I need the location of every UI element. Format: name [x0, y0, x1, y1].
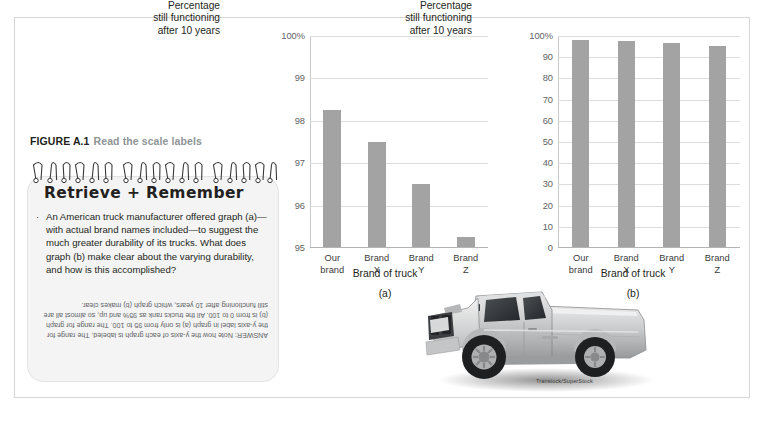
chart-a-y-axis-label: Percentagestill functioningafter 10 year… [120, 0, 220, 37]
gridline [310, 78, 488, 79]
y-axis-tick-label: 80 [543, 73, 553, 83]
y-axis-tick-label: 96 [295, 201, 305, 211]
chart-b-y-axis-label: Percentagestill functioningafter 10 year… [372, 0, 472, 37]
bullet-marker: · [36, 210, 39, 223]
figure-number: FIGURE A.1 [30, 135, 90, 147]
x-axis-line [310, 247, 488, 248]
x-axis-tick-label-line: Brand [364, 253, 389, 265]
y-axis-tick-label: 40 [543, 158, 553, 168]
bar [412, 184, 430, 247]
y-axis-label-line: Percentage [372, 0, 472, 12]
x-axis-tick-label-line: Brand [705, 253, 730, 265]
bar [572, 40, 589, 247]
x-axis-line [558, 247, 740, 248]
photo-credit: Transtock/SuperStock [536, 378, 593, 384]
retrieve-remember-question: · An American truck manufacturer offered… [36, 210, 268, 276]
y-axis-label-line: still functioning [372, 12, 472, 24]
y-axis-tick-label: 50 [543, 137, 553, 147]
y-axis-tick-label: 0 [548, 243, 553, 253]
y-axis-tick-label: 97 [295, 158, 305, 168]
chart-b-plot-area: 0102030405060708090100%OurbrandBrandXBra… [558, 36, 740, 248]
retrieve-remember-box [27, 176, 279, 382]
retrieve-remember-heading: Retrieve + Remember [44, 184, 244, 202]
figure-page: FIGURE A.1Read the scale labels Retrieve… [0, 0, 765, 421]
y-axis-label-line: after 10 years [372, 25, 472, 37]
y-axis-tick-label: 60 [543, 116, 553, 126]
bar [368, 142, 386, 247]
y-axis-tick-label: 98 [295, 116, 305, 126]
x-axis-tick-label-line: Brand [659, 253, 684, 265]
bar [663, 43, 680, 247]
truck-photo [424, 258, 662, 398]
y-axis-label-line: after 10 years [120, 25, 220, 37]
y-axis-tick-label: 70 [543, 95, 553, 105]
y-axis-tick-label: 90 [543, 52, 553, 62]
y-axis-tick-label: 10 [543, 222, 553, 232]
x-axis-tick-label-line: Our [320, 253, 344, 265]
y-axis-tick-label: 20 [543, 201, 553, 211]
y-axis-tick-label: 99 [295, 73, 305, 83]
y-axis-tick-label: 95 [295, 243, 305, 253]
y-axis-tick-label: 100% [281, 31, 305, 41]
question-text: An American truck manufacturer offered g… [46, 210, 268, 276]
y-axis-tick-label: 100% [529, 31, 553, 41]
bar [457, 237, 475, 247]
spiral-binding-icon [30, 160, 280, 184]
figure-caption: FIGURE A.1Read the scale labels [30, 135, 202, 147]
figure-title: Read the scale labels [94, 135, 202, 147]
y-axis-label-line: Percentage [120, 0, 220, 12]
y-axis-tick-label: 30 [543, 179, 553, 189]
bar [323, 110, 341, 247]
chart-a-plot-area: 9596979899100%OurbrandBrandXBrandYBrandZ [310, 36, 488, 248]
bar [709, 46, 726, 247]
bar [618, 41, 635, 247]
retrieve-remember-answer: ANSWER: Note how the y-axis of each grap… [36, 300, 268, 340]
y-axis-line [310, 36, 311, 248]
gridline [558, 36, 740, 37]
y-axis-label-line: still functioning [120, 12, 220, 24]
